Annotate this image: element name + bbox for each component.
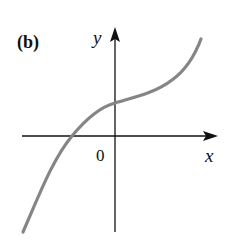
y-axis-label: y (91, 27, 102, 48)
y-axis (110, 27, 120, 232)
origin-label: 0 (96, 146, 105, 165)
x-axis (22, 131, 218, 141)
x-axis-label: x (204, 145, 214, 166)
panel-label: (b) (17, 32, 39, 53)
function-graph: (b) y x 0 (0, 0, 231, 247)
